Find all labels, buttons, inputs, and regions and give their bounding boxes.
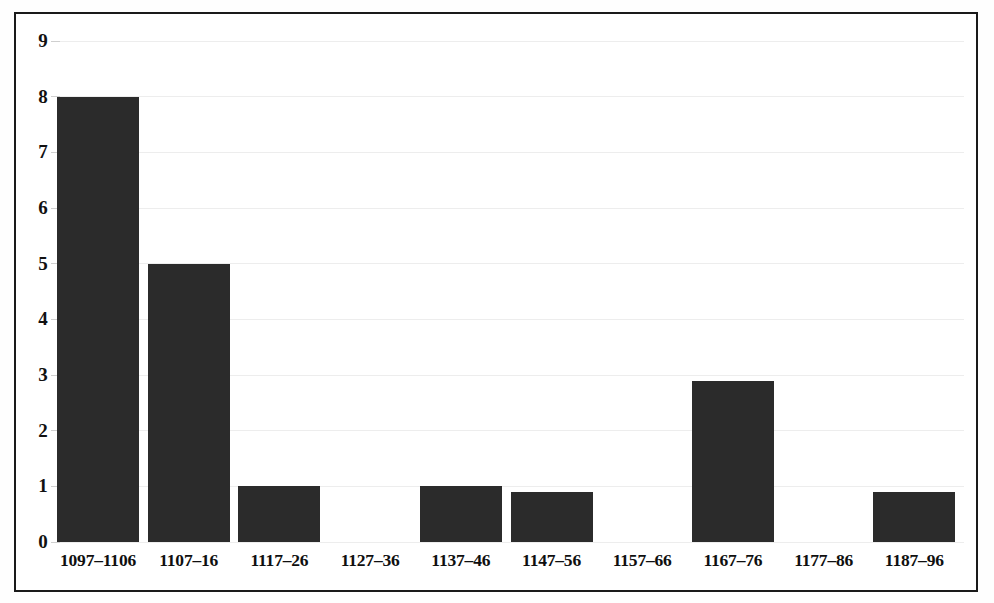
y-axis-tick-label: 7 — [24, 142, 48, 161]
y-axis-tick-label: 0 — [24, 532, 48, 551]
chart-container: 01234567891097–11061107–161117–261127–36… — [0, 0, 994, 603]
gridline-y-7 — [57, 152, 964, 153]
gridline-y-9 — [57, 41, 964, 42]
gridline-y-6 — [57, 208, 964, 209]
y-axis-tick-label: 5 — [24, 254, 48, 273]
y-axis-tick-label: 8 — [24, 87, 48, 106]
y-axis-tick-label: 2 — [24, 421, 48, 440]
bar[interactable] — [873, 492, 955, 542]
y-axis-tick-label: 4 — [24, 309, 48, 328]
y-axis-tick-label: 9 — [24, 31, 48, 50]
gridline-y-8 — [57, 96, 964, 97]
x-axis-tick-label: 1187–96 — [844, 552, 984, 570]
y-axis-tick-label: 1 — [24, 476, 48, 495]
plot-area: 01234567891097–11061107–161117–261127–36… — [0, 0, 994, 603]
bar[interactable] — [511, 492, 593, 542]
y-axis-tick-label: 3 — [24, 365, 48, 384]
bar[interactable] — [692, 381, 774, 542]
y-axis-tick-mark-9 — [51, 41, 60, 42]
bar[interactable] — [57, 97, 139, 542]
bar[interactable] — [148, 264, 230, 542]
bar[interactable] — [238, 486, 320, 542]
bar[interactable] — [420, 486, 502, 542]
y-axis-tick-label: 6 — [24, 198, 48, 217]
